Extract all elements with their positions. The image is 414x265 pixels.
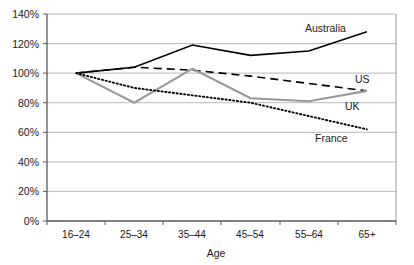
- series-label-us: US: [355, 73, 370, 85]
- series-label-australia: Australia: [305, 22, 346, 34]
- plot-area-background: [47, 14, 396, 221]
- y-tick-label-120: 120%: [12, 38, 39, 50]
- x-tick-label-35-44: 35–44: [178, 229, 206, 240]
- y-tick-label-60: 60%: [18, 126, 39, 138]
- line-chart: 140% 120% 100% 80% 60% 40% 20% 0% 16–24 …: [0, 0, 414, 265]
- series-label-uk: UK: [345, 100, 360, 112]
- x-tick-label-45-54: 45–54: [236, 229, 264, 240]
- x-tick-label-55-64: 55–64: [295, 229, 323, 240]
- y-tick-label-100: 100%: [12, 67, 39, 79]
- x-tick-label-16-24: 16–24: [62, 229, 90, 240]
- series-label-france: France: [315, 132, 348, 144]
- y-tick-label-140: 140%: [12, 8, 39, 20]
- x-tick-label-65plus: 65+: [359, 229, 376, 240]
- y-tick-label-20: 20%: [18, 185, 39, 197]
- y-tick-label-0: 0%: [24, 215, 39, 227]
- y-tick-label-80: 80%: [18, 97, 39, 109]
- y-tick-label-40: 40%: [18, 156, 39, 168]
- x-axis-title: Age: [207, 247, 226, 259]
- x-tick-label-25-34: 25–34: [120, 229, 148, 240]
- chart-canvas: 140% 120% 100% 80% 60% 40% 20% 0% 16–24 …: [0, 0, 414, 265]
